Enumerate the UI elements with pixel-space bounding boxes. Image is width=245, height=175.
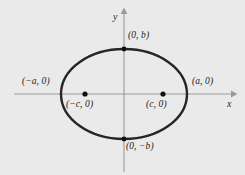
label-covertex-top: (0, b) [128, 31, 149, 41]
point-focus-left [82, 91, 87, 96]
figure-canvas [0, 0, 245, 175]
label-focus-left: (−c, 0) [66, 100, 93, 110]
ellipse-figure: (0, b) (0, −b) (−a, 0) (a, 0) (−c, 0) (c… [0, 0, 245, 175]
axis-label-x: x [227, 99, 231, 109]
label-focus-right: (c, 0) [146, 100, 167, 110]
axis-label-y: y [113, 12, 117, 22]
figure-background [0, 0, 245, 175]
point-covertex-top [122, 47, 127, 52]
label-covertex-bottom: (0, −b) [126, 142, 154, 152]
label-vertex-right: (a, 0) [192, 77, 213, 87]
label-vertex-left: (−a, 0) [22, 77, 50, 87]
point-focus-right [160, 91, 165, 96]
